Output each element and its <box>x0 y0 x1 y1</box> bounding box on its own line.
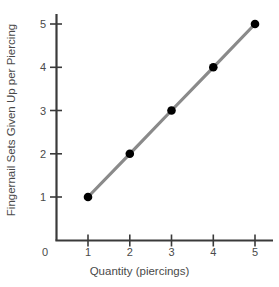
data-point <box>209 63 218 72</box>
data-point <box>251 20 260 29</box>
x-tick-label-3: 3 <box>168 247 174 258</box>
y-axis-title: Fingernail Sets Given Up per Piercing <box>5 24 17 216</box>
y-tick-label-4: 4 <box>40 62 46 73</box>
x-axis-title: Quantity (piercings) <box>0 265 279 277</box>
data-point <box>84 193 93 202</box>
x-tick-label-1: 1 <box>85 247 91 258</box>
y-axis-title-wrapper: Fingernail Sets Given Up per Piercing <box>0 0 22 240</box>
y-tick-label-3: 3 <box>40 105 46 116</box>
x-tick-label-4: 4 <box>210 247 216 258</box>
x-tick-label-5: 5 <box>252 247 258 258</box>
x-tick-label-2: 2 <box>127 247 133 258</box>
data-point <box>126 150 135 159</box>
y-tick-label-2: 2 <box>40 149 46 160</box>
axis-origin-label-0: 0 <box>42 247 48 258</box>
chart-plot-area <box>0 0 279 287</box>
y-tick-label-5: 5 <box>40 19 46 30</box>
chart-figure: 5 4 3 2 1 0 1 2 3 4 5 Quantity (piercing… <box>0 0 279 287</box>
data-point <box>167 106 176 115</box>
y-tick-label-1: 1 <box>40 192 46 203</box>
